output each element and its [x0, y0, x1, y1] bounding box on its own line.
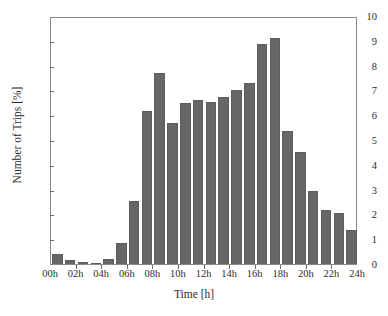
bar: [282, 131, 292, 264]
bar: [180, 103, 190, 264]
y-tick-mark: [50, 42, 54, 43]
x-tick-mark: [101, 265, 102, 269]
y-tick-mark: [50, 166, 54, 167]
x-tick-mark: [178, 265, 179, 269]
y-tick-label: 10: [367, 12, 378, 22]
x-tick-mark: [229, 265, 230, 269]
x-axis-title: Time [h]: [0, 288, 388, 300]
bar: [295, 152, 305, 264]
x-tick-mark: [280, 265, 281, 269]
bar: [193, 100, 203, 264]
y-axis: [0, 0, 50, 283]
x-tick-mark: [255, 265, 256, 269]
x-tick-mark: [76, 265, 77, 269]
bar: [257, 44, 267, 264]
y-axis-title: Number of Trips [%]: [11, 55, 23, 215]
bar: [206, 102, 216, 264]
y-tick-label: 5: [372, 136, 377, 146]
bar: [52, 254, 62, 264]
y-tick-mark: [50, 191, 54, 192]
x-tick-mark: [152, 265, 153, 269]
bar: [244, 83, 254, 264]
y-tick-mark: [50, 141, 54, 142]
bar: [129, 201, 139, 264]
bar: [154, 73, 164, 264]
bar: [78, 262, 88, 264]
bar: [65, 260, 75, 264]
y-tick-mark: [50, 91, 54, 92]
y-tick-label: 1: [372, 235, 377, 245]
y-tick-mark: [50, 67, 54, 68]
y-tick-label: 6: [372, 111, 377, 121]
y-tick-label: 4: [372, 161, 377, 171]
y-tick-label: 3: [372, 186, 377, 196]
bar-chart-figure: Time [h] Number of Trips [%] 01234567891…: [0, 0, 388, 316]
plot-frame: [50, 17, 357, 265]
y-tick-mark: [50, 215, 54, 216]
bar: [142, 111, 152, 264]
y-tick-label: 2: [372, 210, 377, 220]
bar: [334, 213, 344, 264]
bar: [103, 259, 113, 264]
bar: [231, 90, 241, 264]
x-tick-mark: [204, 265, 205, 269]
x-tick-mark: [331, 265, 332, 269]
y-tick-label: 7: [372, 86, 377, 96]
plot-area: [51, 18, 356, 264]
x-tick-mark: [306, 265, 307, 269]
y-tick-mark: [50, 116, 54, 117]
bar: [321, 210, 331, 264]
bar: [218, 97, 228, 264]
y-tick-mark: [50, 240, 54, 241]
x-tick-label: 24h: [340, 268, 374, 279]
bar: [116, 243, 126, 264]
bar: [270, 38, 280, 264]
bar: [308, 191, 318, 264]
x-tick-mark: [127, 265, 128, 269]
y-tick-label: 9: [372, 37, 377, 47]
bar: [346, 230, 356, 264]
y-tick-label: 8: [372, 62, 377, 72]
bar: [91, 263, 101, 264]
bar: [167, 123, 177, 264]
